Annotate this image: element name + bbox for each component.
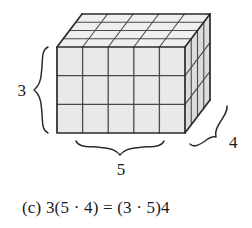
- curly-brace-bottom-icon: [76, 141, 164, 155]
- depth-label: 4: [229, 133, 238, 152]
- figure-container: 3 5 4 (c) 3(5 · 4) = (3 · 5)4: [0, 0, 252, 228]
- unit-cube-prism-diagram: 3 5 4: [0, 0, 252, 228]
- prism-front-face: [57, 47, 185, 133]
- height-label: 3: [18, 81, 27, 100]
- figure-caption: (c) 3(5 · 4) = (3 · 5)4: [22, 198, 170, 218]
- curly-brace-left-icon: [34, 47, 48, 133]
- width-label: 5: [117, 160, 126, 179]
